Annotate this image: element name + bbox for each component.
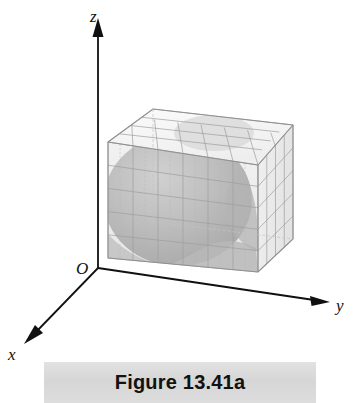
y-axis-label: y xyxy=(334,296,344,315)
z-axis-label: z xyxy=(89,7,97,26)
y-axis-arrowhead xyxy=(310,296,330,306)
gridded-box xyxy=(104,109,293,274)
y-axis xyxy=(98,268,330,306)
figure-caption: Figure 13.41a xyxy=(44,362,316,403)
figure-container: z y x O Figure 13.41a xyxy=(0,0,359,403)
x-axis-label: x xyxy=(7,345,16,364)
z-axis xyxy=(93,18,104,268)
origin-label: O xyxy=(76,259,88,278)
x-axis xyxy=(24,268,98,344)
interior-solid-top xyxy=(174,115,254,151)
coordinate-system-diagram: z y x O xyxy=(0,0,359,403)
